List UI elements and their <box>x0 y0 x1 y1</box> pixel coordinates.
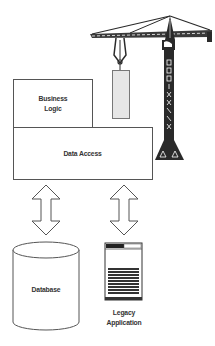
hanging-block <box>112 70 130 119</box>
legacy-application-icon <box>104 242 144 302</box>
arrow-to-database-icon <box>31 185 61 235</box>
business-logic-layer: Business Logic <box>13 79 93 128</box>
business-logic-label: Business Logic <box>39 94 68 114</box>
arrow-to-legacy-app-icon <box>109 185 139 235</box>
legacy-application-label: Legacy Application <box>99 308 150 328</box>
business-logic-label-line2: Logic <box>39 104 68 114</box>
legacy-application-label-line1: Legacy <box>99 308 150 318</box>
legacy-application-label-line2: Application <box>99 318 150 328</box>
business-logic-label-line1: Business <box>39 94 68 104</box>
database-label: Database <box>18 285 74 295</box>
data-access-layer: Data Access <box>13 127 153 180</box>
data-access-label: Data Access <box>64 149 102 159</box>
